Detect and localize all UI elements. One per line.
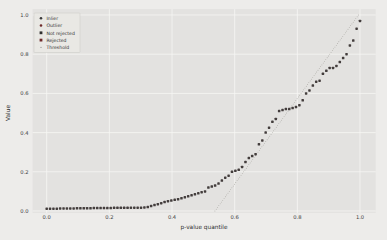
plot-background	[33, 9, 376, 213]
threshold-dot	[324, 61, 325, 62]
threshold-dot	[286, 113, 287, 114]
y-tick-label: 0.0	[20, 208, 28, 214]
threshold-dot	[335, 47, 336, 48]
threshold-dot	[331, 52, 332, 53]
data-point	[328, 67, 331, 70]
threshold-dot	[216, 209, 217, 210]
data-point	[160, 202, 163, 205]
data-point	[339, 61, 342, 64]
threshold-dot	[284, 116, 285, 117]
data-point	[221, 179, 224, 182]
threshold-dot	[294, 102, 295, 103]
data-point	[194, 193, 197, 196]
data-point	[214, 184, 217, 187]
threshold-dot	[327, 57, 328, 58]
data-point	[69, 207, 72, 210]
threshold-dot	[355, 18, 356, 19]
threshold-dot	[228, 193, 229, 194]
data-point	[248, 157, 251, 160]
threshold-dot	[307, 84, 308, 85]
data-point	[109, 207, 112, 210]
data-point	[268, 126, 271, 129]
data-point	[167, 200, 170, 203]
threshold-dot	[288, 111, 289, 112]
data-point	[325, 70, 328, 73]
threshold-dot	[306, 86, 307, 87]
threshold-dot	[276, 127, 277, 128]
threshold-dot	[246, 168, 247, 169]
threshold-dot	[322, 64, 323, 65]
legend-entry-label: Not rejected	[47, 31, 75, 36]
data-point	[126, 207, 129, 210]
data-point	[123, 207, 126, 210]
threshold-dot	[230, 189, 231, 190]
data-point	[298, 104, 301, 107]
data-point	[49, 207, 52, 210]
data-point	[204, 190, 207, 193]
threshold-dot	[275, 129, 276, 130]
data-point	[264, 131, 267, 134]
y-tick-label: 1.0	[20, 12, 28, 18]
threshold-dot	[346, 31, 347, 32]
legend-marker-dot	[40, 47, 41, 48]
data-point	[254, 153, 256, 156]
y-tick-label: 0.2	[20, 169, 28, 175]
threshold-dot	[278, 123, 279, 124]
data-point	[76, 207, 79, 210]
threshold-dot	[251, 161, 252, 162]
threshold-dot	[245, 170, 246, 171]
data-point	[207, 186, 210, 189]
data-point	[72, 207, 75, 210]
x-tick-label: 0.6	[231, 214, 239, 220]
threshold-dot	[243, 171, 244, 172]
threshold-dot	[352, 24, 353, 25]
data-point	[120, 207, 123, 210]
data-point	[66, 207, 69, 210]
threshold-dot	[252, 159, 253, 160]
threshold-dot	[262, 146, 263, 147]
data-point	[103, 207, 106, 210]
data-point	[241, 166, 244, 169]
threshold-dot	[250, 162, 251, 163]
x-tick-label: 1.0	[356, 214, 364, 220]
x-tick-label: 0.2	[105, 214, 113, 220]
data-point	[143, 206, 146, 209]
data-point	[312, 84, 315, 87]
threshold-dot	[310, 81, 311, 82]
threshold-dot	[225, 196, 226, 197]
data-point	[308, 89, 311, 92]
data-point	[217, 182, 220, 185]
data-point	[177, 198, 180, 201]
threshold-dot	[298, 97, 299, 98]
legend-entry-label: Inlier	[47, 16, 59, 21]
threshold-dot	[218, 205, 219, 206]
threshold-dot	[233, 186, 234, 187]
threshold-dot	[259, 150, 260, 151]
data-point	[258, 143, 261, 146]
legend-marker-circle	[40, 24, 43, 27]
threshold-dot	[308, 82, 309, 83]
threshold-dot	[333, 48, 334, 49]
data-point	[251, 155, 254, 158]
threshold-dot	[323, 63, 324, 64]
threshold-dot	[280, 122, 281, 123]
legend-marker-circle	[40, 17, 43, 20]
data-point	[234, 170, 237, 173]
data-point	[305, 92, 308, 95]
threshold-dot	[235, 182, 236, 183]
threshold-dot	[238, 179, 239, 180]
threshold-dot	[328, 56, 329, 57]
data-point	[79, 207, 82, 210]
threshold-dot	[320, 66, 321, 67]
x-tick-label: 0.8	[293, 214, 301, 220]
threshold-dot	[221, 202, 222, 203]
data-point	[231, 171, 234, 174]
data-point	[301, 99, 304, 102]
threshold-dot	[299, 95, 300, 96]
data-point	[45, 207, 48, 210]
threshold-dot	[258, 152, 259, 153]
threshold-dot	[272, 132, 273, 133]
threshold-dot	[325, 59, 326, 60]
threshold-dot	[311, 79, 312, 80]
threshold-dot	[239, 177, 240, 178]
